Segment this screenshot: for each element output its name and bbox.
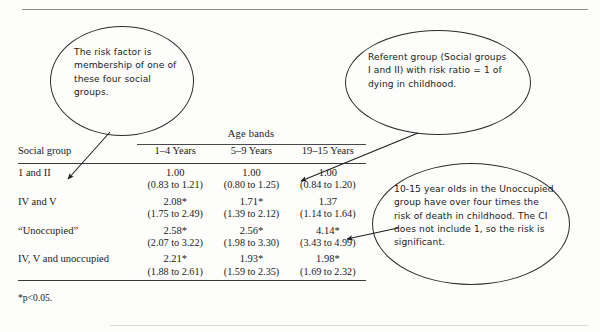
row-2-ci-1: (1.75 to 2.49) [137,208,213,221]
row-2-value-2: 1.71* [213,193,289,208]
row-3-value-2: 2.56* [213,222,289,237]
header-band-1: 1–4 Years [137,145,213,164]
row-4-value-3: 1.98* [290,250,366,265]
page-canvas: Age bands Social group 1–4 Years 5–9 Yea… [0,0,600,332]
callout-right-text: 10-15 year olds in the Unoccupied group … [394,183,554,249]
table-bottom-rule [18,280,366,281]
table-row: IV, V and unoccupied 2.21* 1.93* 1.98* [18,250,366,265]
table-row-ci: (1.88 to 2.61) (1.59 to 2.35) (1.69 to 2… [18,266,366,279]
table-row: 1 and II 1.00 1.00 1.00 [18,164,366,179]
page-rule-top [22,9,588,10]
row-1-ci-spacer [18,179,137,192]
row-4-ci-1: (1.88 to 2.61) [137,266,213,279]
table-footnote: *p<0.05. [18,292,52,303]
row-label-1: 1 and II [18,164,137,179]
row-3-value-1: 2.58* [137,222,213,237]
row-2-ci-3: (1.14 to 1.64) [290,208,366,221]
row-2-ci-spacer [18,208,137,221]
header-row: Social group 1–4 Years 5–9 Years 19–15 Y… [18,145,366,164]
callout-middle-text: Referent group (Social groups I and II) … [368,51,512,91]
row-3-ci-2: (1.98 to 3.30) [213,237,289,250]
page-rule-bottom [110,325,588,326]
row-1-ci-2: (0.80 to 1.25) [213,179,289,192]
table-spanner-label: Age bands [18,128,366,139]
header-social-group: Social group [18,145,137,164]
row-2-value-1: 2.08* [137,193,213,208]
row-4-ci-spacer [18,266,137,279]
header-band-2: 5–9 Years [213,145,289,164]
table-grid: Social group 1–4 Years 5–9 Years 19–15 Y… [18,145,366,279]
row-1-ci-3: (0.84 to 1.20) [290,179,366,192]
callout-left-text: The risk factor is membership of one of … [74,46,178,99]
row-3-ci-spacer [18,237,137,250]
row-4-ci-2: (1.59 to 2.35) [213,266,289,279]
row-2-ci-2: (1.39 to 2.12) [213,208,289,221]
row-1-value-1: 1.00 [137,164,213,179]
row-label-4: IV, V and unoccupied [18,250,137,265]
row-4-value-2: 1.93* [213,250,289,265]
row-1-ci-1: (0.83 to 1.21) [137,179,213,192]
table-row: IV and V 2.08* 1.71* 1.37 [18,193,366,208]
row-3-value-3: 4.14* [290,222,366,237]
row-label-2: IV and V [18,193,137,208]
row-4-value-1: 2.21* [137,250,213,265]
header-band-3: 19–15 Years [290,145,366,164]
table-row-ci: (1.75 to 2.49) (1.39 to 2.12) (1.14 to 1… [18,208,366,221]
row-1-value-2: 1.00 [213,164,289,179]
table-body: 1 and II 1.00 1.00 1.00 (0.83 to 1.21) (… [18,164,366,279]
table-row: “Unoccupied” 2.58* 2.56* 4.14* [18,222,366,237]
table-row-ci: (0.83 to 1.21) (0.80 to 1.25) (0.84 to 1… [18,179,366,192]
row-1-value-3: 1.00 [290,164,366,179]
row-3-ci-3: (3.43 to 4.99) [290,237,366,250]
table-row-ci: (2.07 to 3.22) (1.98 to 3.30) (3.43 to 4… [18,237,366,250]
row-3-ci-1: (2.07 to 3.22) [137,237,213,250]
row-4-ci-3: (1.69 to 2.32) [290,266,366,279]
row-label-3: “Unoccupied” [18,222,137,237]
table-header: Social group 1–4 Years 5–9 Years 19–15 Y… [18,145,366,164]
row-2-value-3: 1.37 [290,193,366,208]
